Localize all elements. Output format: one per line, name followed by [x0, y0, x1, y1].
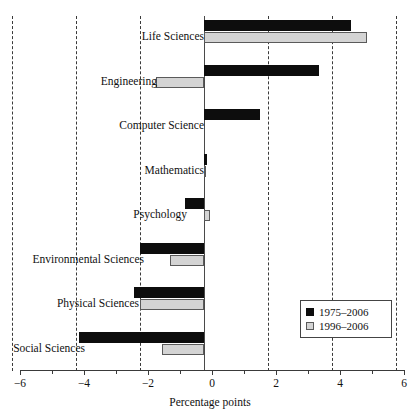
- x-tick-major: [276, 370, 277, 375]
- x-tick-minor: [180, 370, 181, 374]
- x-tick-label: −2: [133, 377, 163, 389]
- x-tick-label: −6: [5, 377, 35, 389]
- x-tick-major: [20, 370, 21, 375]
- legend-label: 1996–2006: [319, 320, 369, 332]
- x-tick-label: −4: [69, 377, 99, 389]
- category-label: Psychology: [133, 208, 187, 220]
- category-label: Physical Sciences: [57, 297, 139, 309]
- bar: [134, 287, 204, 298]
- x-tick-major: [212, 370, 213, 375]
- x-tick-label: 4: [325, 377, 355, 389]
- category-label: Life Sciences: [142, 30, 204, 42]
- x-tick-minor: [244, 370, 245, 374]
- x-tick-minor: [372, 370, 373, 374]
- x-tick-major: [84, 370, 85, 375]
- x-tick-label: 6: [389, 377, 419, 389]
- bar: [79, 332, 204, 343]
- bar: [204, 154, 207, 165]
- x-axis-title: Percentage points: [0, 396, 420, 408]
- legend-item-1996-2006: 1996–2006: [306, 319, 386, 333]
- category-label: Computer Science: [119, 119, 204, 131]
- bar: [162, 344, 204, 355]
- bar: [204, 109, 260, 120]
- bar: [140, 243, 204, 254]
- gridline: [396, 16, 397, 371]
- gridline: [140, 16, 141, 371]
- bar: [170, 255, 204, 266]
- x-tick-label: 0: [197, 377, 227, 389]
- category-label: Environmental Sciences: [33, 253, 144, 265]
- chart-legend: 1975–2006 1996–2006: [300, 300, 392, 338]
- legend-swatch-light-icon: [306, 322, 314, 330]
- gridline: [12, 16, 13, 371]
- x-tick-major: [404, 370, 405, 375]
- category-label: Mathematics: [145, 164, 204, 176]
- x-tick-minor: [52, 370, 53, 374]
- x-tick-minor: [116, 370, 117, 374]
- bar: [156, 77, 204, 88]
- x-tick-minor: [308, 370, 309, 374]
- bar: [204, 210, 210, 221]
- category-label: Social Sciences: [13, 342, 85, 354]
- legend-swatch-dark-icon: [306, 308, 314, 316]
- x-tick-label: 2: [261, 377, 291, 389]
- category-label: Engineering: [101, 75, 157, 87]
- gridline: [76, 16, 77, 371]
- x-tick-major: [148, 370, 149, 375]
- legend-item-1975-2006: 1975–2006: [306, 305, 386, 319]
- bar: [204, 65, 319, 76]
- bar: [204, 166, 206, 177]
- bar: [185, 198, 204, 209]
- bar: [140, 299, 204, 310]
- legend-label: 1975–2006: [319, 306, 369, 318]
- bar: [204, 32, 367, 43]
- bar: [204, 20, 351, 31]
- bar-chart: Life SciencesEngineeringComputer Science…: [0, 0, 420, 418]
- x-tick-major: [340, 370, 341, 375]
